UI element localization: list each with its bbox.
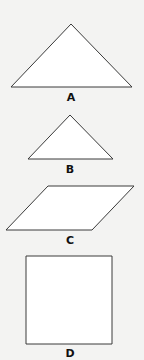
- label-a: A: [56, 92, 86, 104]
- triangle-b: [28, 115, 113, 159]
- triangle-a: [11, 24, 132, 87]
- label-c: C: [55, 235, 85, 247]
- label-b: B: [55, 164, 85, 176]
- parallelogram-c: [6, 186, 134, 230]
- square-d: [26, 256, 112, 344]
- shapes-canvas: [0, 0, 144, 360]
- label-d: D: [55, 348, 85, 360]
- shapes-figure: A B C D: [0, 0, 144, 360]
